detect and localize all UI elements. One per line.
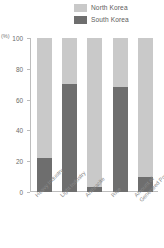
stacked-bar[interactable] [37, 38, 52, 192]
y-axis-line [30, 38, 31, 192]
y-tick-60: 60 [27, 100, 30, 101]
y-tick-label-80: 80 [16, 65, 23, 72]
y-tick-40: 40 [27, 130, 30, 131]
plot-area: 100 80 60 40 20 0 [30, 38, 158, 192]
bar-slot [82, 38, 107, 192]
bar-segment-north-korea [37, 38, 52, 158]
y-tick-label-40: 40 [16, 127, 23, 134]
stacked-bar-chart: North Korea South Korea (%) 100 80 60 40… [0, 0, 164, 248]
legend-swatch-north-korea [74, 4, 87, 12]
legend-swatch-south-korea [74, 16, 87, 24]
bar-segment-north-korea [62, 38, 77, 84]
legend-entry-south-korea: South Korea [74, 15, 129, 24]
bar-group [32, 38, 158, 192]
y-tick-label-100: 100 [12, 35, 23, 42]
y-tick-100: 100 [27, 38, 30, 39]
chart-legend: North Korea South Korea [74, 3, 129, 24]
stacked-bar[interactable] [62, 38, 77, 192]
stacked-bar[interactable] [87, 38, 102, 192]
y-tick-label-0: 0 [19, 189, 23, 196]
stacked-bar[interactable] [138, 38, 153, 192]
bar-segment-north-korea [87, 38, 102, 187]
stacked-bar[interactable] [113, 38, 128, 192]
y-axis-unit-label: (%) [1, 33, 10, 39]
bar-slot [32, 38, 57, 192]
bar-slot [108, 38, 133, 192]
legend-label-north-korea: North Korea [91, 4, 128, 12]
bar-segment-south-korea [113, 87, 128, 192]
bar-segment-north-korea [138, 38, 153, 177]
y-tick-0: 0 [27, 192, 30, 193]
bar-segment-north-korea [113, 38, 128, 87]
x-axis-category-labels: Heavy IndustryLight IndustryAnthraciteRi… [32, 194, 160, 248]
y-tick-label-60: 60 [16, 96, 23, 103]
y-tick-label-20: 20 [16, 158, 23, 165]
y-tick-20: 20 [27, 161, 30, 162]
legend-label-south-korea: South Korea [91, 16, 129, 24]
legend-entry-north-korea: North Korea [74, 3, 129, 12]
y-tick-80: 80 [27, 69, 30, 70]
bar-slot [133, 38, 158, 192]
